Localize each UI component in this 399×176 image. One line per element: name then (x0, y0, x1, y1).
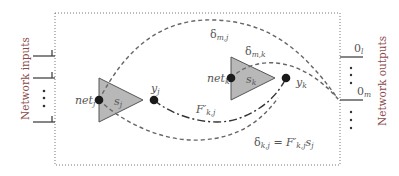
network-outputs-label: Network outputs (376, 36, 388, 126)
input-ellipsis-icon (43, 90, 46, 108)
y-k-label: yk (296, 77, 307, 90)
s-k-label: sk (246, 74, 256, 87)
connection-fkj-label: F′k,j (196, 104, 215, 117)
y-j-label: yj (151, 83, 160, 96)
y-k-node (282, 74, 291, 83)
delta-kj-equation: δk,j = F′k,jsj (254, 137, 314, 150)
y-j-node (150, 96, 159, 105)
net-k-label: netk (207, 73, 230, 86)
s-j-label: sj (114, 96, 122, 109)
diagram-canvas (0, 0, 399, 176)
neural-network-diagram: Network inputs Network outputs netj sj y… (0, 0, 399, 176)
delta-mk-label: δm,k (245, 46, 266, 59)
input-lines (33, 50, 55, 122)
net-j-label: netj (75, 95, 95, 108)
output-m-label: 0m (357, 86, 371, 99)
output-l-label: 0l (354, 43, 363, 56)
network-inputs-label: Network inputs (19, 37, 31, 120)
delta-mj-label: δm,j (210, 29, 228, 42)
output-ellipsis-icon (350, 67, 352, 129)
net-j-node (95, 96, 104, 105)
